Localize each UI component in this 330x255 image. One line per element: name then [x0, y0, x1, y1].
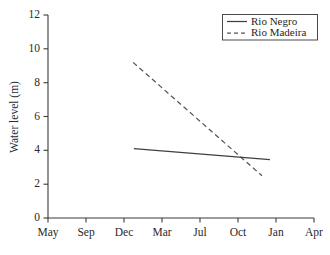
legend-label-rio-negro: Rio Negro	[251, 15, 298, 27]
legend-label-rio-madeira: Rio Madeira	[251, 26, 306, 38]
chart-legend: Rio Negro Rio Madeira	[223, 15, 318, 41]
y-tick-label-6: 6	[34, 110, 40, 122]
x-tick-label-jan: Jan	[268, 226, 284, 238]
x-tick-label-sep: Sep	[77, 226, 95, 239]
y-tick-label-8: 8	[34, 76, 40, 88]
x-tick-label-may: May	[37, 226, 58, 239]
y-tick-label-4: 4	[34, 143, 40, 155]
x-tick-label-mar: Mar	[152, 226, 171, 238]
y-axis-ticks: 12 10 8 6 4 2 0	[29, 8, 49, 223]
x-axis-ticks: May Sep Dec Mar Jul Oct Jan Apr	[37, 218, 323, 239]
y-axis-title: Water level (m)	[8, 81, 21, 153]
y-tick-label-0: 0	[34, 211, 40, 223]
x-tick-label-dec: Dec	[115, 226, 134, 238]
series-line-rio-negro	[134, 149, 270, 160]
series-line-rio-madeira	[133, 62, 262, 175]
chart-figure: Water level (m) 12 10 8 6 4 2 0 May	[0, 0, 330, 255]
x-tick-label-oct: Oct	[230, 226, 247, 238]
y-tick-label-10: 10	[29, 42, 41, 54]
y-tick-label-2: 2	[34, 177, 40, 189]
y-tick-label-12: 12	[29, 8, 41, 20]
x-tick-label-apr: Apr	[305, 226, 323, 239]
x-tick-label-jul: Jul	[193, 226, 206, 238]
line-chart-canvas: Water level (m) 12 10 8 6 4 2 0 May	[0, 0, 330, 255]
